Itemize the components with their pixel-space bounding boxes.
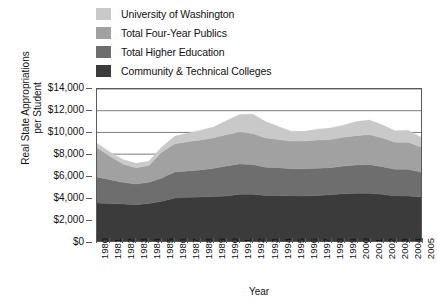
x-axis-tick-mark [370, 238, 371, 243]
x-axis-tick-label: 1984 [152, 238, 162, 280]
x-axis-tick-label: 2002 [387, 238, 397, 280]
chart-legend: University of Washington Total Four-Year… [96, 4, 396, 80]
x-axis-tick-mark [252, 238, 253, 243]
y-axis-tick-mark [86, 198, 92, 199]
x-axis-tick-label: 2004 [413, 238, 423, 280]
x-axis-tick-mark [292, 238, 293, 243]
legend-item: Community & Technical Colleges [96, 61, 396, 80]
x-axis-tick-mark [396, 238, 397, 243]
y-axis: $14,000$12,000$10,000$8,000$6,000$4,000$… [36, 80, 92, 250]
legend-item: Total Higher Education [96, 42, 396, 61]
legend-label: University of Washington [121, 8, 234, 20]
legend-label: Total Higher Education [121, 46, 224, 58]
x-axis-tick-mark [422, 238, 423, 243]
x-axis-tick-mark [96, 238, 97, 243]
x-axis-tick-mark [344, 238, 345, 243]
x-axis-tick-label: 1995 [296, 238, 306, 280]
x-axis-tick-label: 2000 [361, 238, 371, 280]
x-axis-tick-label: 1993 [270, 238, 280, 280]
y-axis-tick-label: $4,000 [53, 193, 84, 203]
x-axis-tick-label: 1997 [322, 238, 332, 280]
y-axis-title: Real State Appropriationsper Student [20, 38, 44, 178]
x-axis-tick-mark [239, 238, 240, 243]
y-axis-tick-label: $2,000 [53, 215, 84, 225]
legend-label: Community & Technical Colleges [121, 65, 271, 77]
y-axis-tick-mark [86, 242, 92, 243]
x-axis-title: Year [96, 286, 422, 297]
x-axis-tick-label: 1998 [335, 238, 345, 280]
x-axis-tick-label: 1992 [256, 238, 266, 280]
legend-swatch-community-technical-colleges [96, 65, 111, 77]
y-axis-tick-label: $12,000 [48, 105, 84, 115]
y-axis-tick-label: $6,000 [53, 171, 84, 181]
x-axis-tick-label: 1986 [178, 238, 188, 280]
x-axis-tick-mark [161, 238, 162, 243]
x-axis-tick-label: 1982 [126, 238, 136, 280]
x-axis-tick-mark [409, 238, 410, 243]
x-axis-tick-mark [148, 238, 149, 243]
x-axis-tick-mark [318, 238, 319, 243]
y-axis-tick-mark [86, 132, 92, 133]
legend-item: University of Washington [96, 4, 396, 23]
x-axis-tick-mark [305, 238, 306, 243]
x-axis-tick-label: 2003 [400, 238, 410, 280]
chart-svg [97, 89, 421, 241]
y-axis-tick-mark [86, 88, 92, 89]
y-axis-tick-label: $8,000 [53, 149, 84, 159]
y-axis-tick-label: $10,000 [48, 127, 84, 137]
x-axis-tick-label: 1991 [243, 238, 253, 280]
x-axis-tick-label: 1999 [348, 238, 358, 280]
y-axis-tick-label: $14,000 [48, 83, 84, 93]
x-axis-tick-mark [200, 238, 201, 243]
x-axis-tick-label: 1981 [113, 238, 123, 280]
x-axis-tick-mark [226, 238, 227, 243]
x-axis-tick-label: 1987 [191, 238, 201, 280]
x-axis-tick-label: 2001 [374, 238, 384, 280]
x-axis-tick-label: 1994 [283, 238, 293, 280]
x-axis-tick-mark [213, 238, 214, 243]
x-axis-tick-label: 1996 [309, 238, 319, 280]
legend-item: Total Four-Year Publics [96, 23, 396, 42]
x-axis-tick-mark [109, 238, 110, 243]
y-axis-tick-mark [86, 176, 92, 177]
x-axis-tick-label: 1985 [165, 238, 175, 280]
x-axis-tick-label: 2005 [426, 238, 436, 280]
legend-swatch-total-higher-education [96, 46, 111, 58]
y-axis-tick-mark [86, 220, 92, 221]
x-axis-tick-label: 1983 [139, 238, 149, 280]
x-axis-tick-mark [383, 238, 384, 243]
stacked-area-chart-plot [96, 88, 422, 242]
x-axis-tick-mark [279, 238, 280, 243]
x-axis-tick-mark [187, 238, 188, 243]
x-axis: 1980198119821983198419851986198719881989… [96, 244, 422, 286]
x-axis-tick-label: 1990 [230, 238, 240, 280]
y-axis-tick-mark [86, 110, 92, 111]
y-axis-title-line-2: per Student [32, 38, 44, 178]
x-axis-tick-label: 1989 [217, 238, 227, 280]
y-axis-title-line-1: Real State Appropriations [20, 38, 32, 178]
legend-swatch-university-of-washington [96, 8, 111, 20]
x-axis-tick-mark [266, 238, 267, 243]
legend-label: Total Four-Year Publics [121, 27, 227, 39]
x-axis-tick-mark [357, 238, 358, 243]
x-axis-tick-mark [331, 238, 332, 243]
x-axis-tick-label: 1988 [204, 238, 214, 280]
x-axis-tick-mark [122, 238, 123, 243]
x-axis-tick-mark [174, 238, 175, 243]
y-axis-tick-mark [86, 154, 92, 155]
legend-swatch-total-four-year-publics [96, 27, 111, 39]
y-axis-tick-label: $0 [73, 237, 84, 247]
x-axis-tick-label: 1980 [100, 238, 110, 280]
x-axis-tick-mark [135, 238, 136, 243]
